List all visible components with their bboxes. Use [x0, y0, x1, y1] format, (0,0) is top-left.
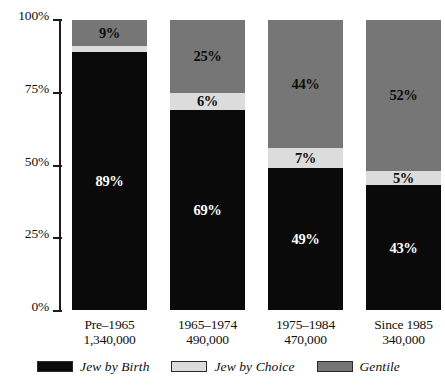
bar-segment-label: 7% [295, 151, 316, 165]
bar-segment-label: 43% [389, 241, 417, 255]
bar-segment-label: 89% [95, 174, 123, 188]
y-axis-tick-mark [53, 310, 62, 312]
bar-segment-birth[interactable]: 69% [170, 110, 245, 310]
y-axis-tick-mark [53, 165, 62, 167]
bar-group[interactable]: 9%89% [72, 20, 147, 310]
category-period: Pre–1965 [54, 318, 165, 333]
legend-item[interactable]: Gentile [317, 360, 400, 373]
bar-segment-gentile[interactable]: 25% [170, 20, 245, 93]
legend-item[interactable]: Jew by Birth [37, 360, 149, 373]
bar-stack: 44%7%49% [268, 20, 343, 310]
y-axis-tick-mark [53, 237, 62, 239]
bar-group[interactable]: 44%7%49% [268, 20, 343, 310]
bar-segment-label: 44% [291, 77, 319, 91]
bar-segment-birth[interactable]: 49% [268, 168, 343, 310]
category-count: 490,000 [152, 333, 263, 348]
y-axis-tick-label: 75% [25, 82, 49, 95]
category-period: 1965–1974 [152, 318, 263, 333]
y-axis-tick-label: 50% [25, 155, 49, 168]
bar-group[interactable]: 52%5%43% [366, 20, 441, 310]
legend-swatch-icon [317, 361, 353, 372]
bar-segment-label: 25% [193, 49, 221, 63]
category-count: 340,000 [348, 333, 445, 348]
x-axis-category-label: 1965–1974490,000 [152, 318, 263, 347]
category-period: 1975–1984 [250, 318, 361, 333]
bar-stack: 52%5%43% [366, 20, 441, 310]
bar-segment-label: 52% [389, 88, 417, 102]
y-axis-tick-label: 100% [18, 9, 49, 22]
legend-swatch-icon [171, 361, 207, 372]
bar-segment-birth[interactable]: 43% [366, 185, 441, 310]
legend-item[interactable]: Jew by Choice [171, 360, 294, 373]
bar-segment-label: 69% [193, 203, 221, 217]
y-axis-tick-label: 25% [25, 227, 49, 240]
chart-legend: Jew by BirthJew by ChoiceGentile [0, 356, 437, 376]
x-axis-category-label: Since 1985340,000 [348, 318, 445, 347]
x-axis-category-label: Pre–19651,340,000 [54, 318, 165, 347]
bar-segment-label: 49% [291, 232, 319, 246]
bar-segment-gentile[interactable]: 52% [366, 20, 441, 171]
bar-segment-choice[interactable]: 7% [268, 148, 343, 168]
bar-segment-birth[interactable]: 89% [72, 52, 147, 310]
y-axis-tick-mark [53, 92, 62, 94]
bar-segment-gentile[interactable]: 9% [72, 20, 147, 46]
y-axis-tick-label: 0% [31, 300, 49, 313]
bar-segment-label: 6% [197, 94, 218, 108]
y-axis: 100%75%50%25%0% [0, 12, 62, 318]
category-period: Since 1985 [348, 318, 445, 333]
plot-area: 9%89%25%6%69%44%7%49%52%5%43% [62, 20, 437, 310]
bar-segment-label: 9% [99, 26, 120, 40]
bar-segment-choice[interactable]: 5% [366, 171, 441, 186]
legend-swatch-icon [37, 361, 73, 372]
bar-segment-gentile[interactable]: 44% [268, 20, 343, 148]
category-count: 470,000 [250, 333, 361, 348]
bar-group[interactable]: 25%6%69% [170, 20, 245, 310]
bar-stack: 9%89% [72, 20, 147, 310]
bar-segment-choice[interactable]: 6% [170, 93, 245, 110]
bar-segment-label: 5% [393, 171, 414, 185]
x-axis-category-label: 1975–1984470,000 [250, 318, 361, 347]
bar-stack: 25%6%69% [170, 20, 245, 310]
legend-label: Jew by Choice [214, 360, 294, 373]
category-count: 1,340,000 [54, 333, 165, 348]
legend-label: Gentile [360, 360, 400, 373]
y-axis-tick-mark [53, 19, 62, 21]
legend-label: Jew by Birth [80, 360, 149, 373]
